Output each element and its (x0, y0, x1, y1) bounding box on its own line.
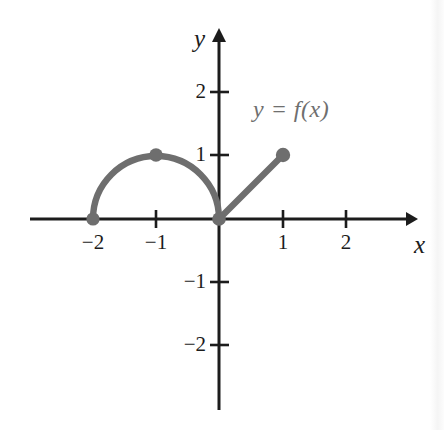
y-tick-label--2: −2 (160, 334, 206, 355)
x-axis-label: x (414, 232, 425, 257)
y-axis-label: y (194, 26, 205, 51)
y-tick-label-1: 1 (168, 144, 206, 165)
coordinate-plot (0, 0, 444, 430)
x-tick-label-2: 2 (326, 232, 366, 253)
x-axis-arrowhead (406, 212, 418, 226)
y-axis-arrowhead (212, 28, 226, 42)
function-label: y = f(x) (253, 97, 329, 121)
x-tick-label--2: −2 (73, 232, 113, 253)
y-tick-label-2: 2 (168, 81, 206, 102)
data-point-1-1 (276, 148, 290, 162)
figure-container: −2 −1 1 2 2 1 −1 −2 y x y = f(x) (0, 0, 444, 430)
data-point--2-0 (86, 212, 99, 225)
data-point-0-0 (212, 212, 226, 226)
x-tick-label-1: 1 (263, 232, 303, 253)
y-tick-label--1: −1 (160, 271, 206, 292)
data-point--1-1 (149, 148, 163, 162)
x-tick-label--1: −1 (136, 232, 176, 253)
linear-branch (219, 155, 283, 219)
